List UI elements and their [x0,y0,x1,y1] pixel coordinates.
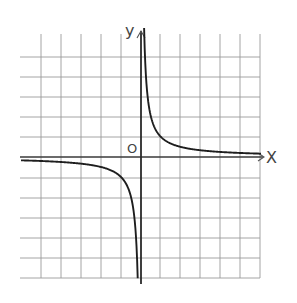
curve-branch-positive [144,28,261,154]
x-axis-label: X [266,148,277,167]
y-axis-label: y [125,21,134,40]
grid-lines [20,34,260,278]
hyperbola-graph: X y O [0,0,297,303]
figure-caption [0,296,297,303]
origin-label: O [127,141,137,156]
